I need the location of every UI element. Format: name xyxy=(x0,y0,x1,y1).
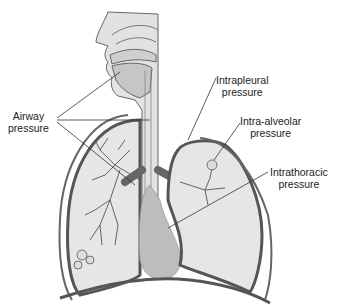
label-line: Intrathoracic xyxy=(270,166,328,178)
label-line: pressure xyxy=(240,127,301,139)
label-line: Intrapleural xyxy=(216,74,269,86)
alveolus xyxy=(207,160,217,170)
label-intrapleural-pressure: Intrapleural pressure xyxy=(216,74,269,98)
label-airway-pressure: Airway pressure xyxy=(8,110,49,134)
label-line: Intra-alveolar xyxy=(240,115,301,127)
label-intrathoracic-pressure: Intrathoracic pressure xyxy=(270,166,328,190)
respiratory-pressure-diagram: Airway pressure Intrapleural pressure In… xyxy=(0,0,339,305)
label-line: pressure xyxy=(216,86,269,98)
label-intra-alveolar-pressure: Intra-alveolar pressure xyxy=(240,115,301,139)
label-line: pressure xyxy=(8,122,49,134)
label-line: Airway xyxy=(8,110,49,122)
anatomy-illustration xyxy=(0,0,339,305)
left-lung xyxy=(60,115,141,300)
label-line: pressure xyxy=(270,178,328,190)
